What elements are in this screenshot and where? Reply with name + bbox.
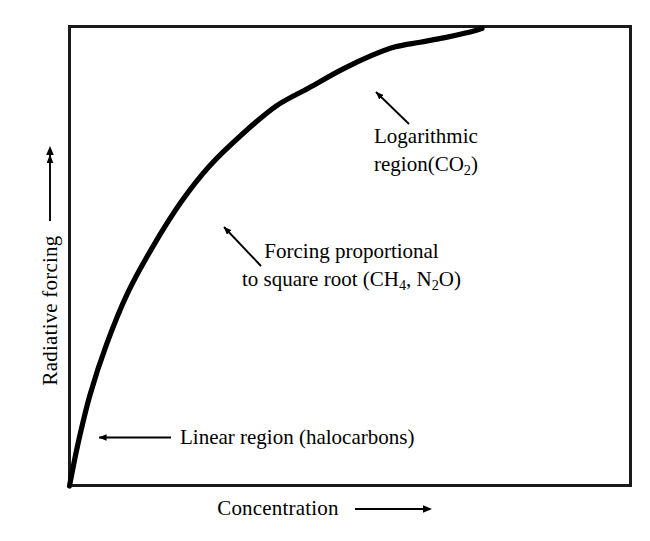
x-axis-label: Concentration [0,496,650,521]
annotation-square-root-line2: to square root (CH4, N2O) [242,266,461,294]
annotation-square-root-line1: Forcing proportional [242,238,461,266]
right-arrow-icon [353,502,433,516]
annotation-square-root-line2-part3: O) [439,267,461,291]
annotation-square-root: Forcing proportional to square root (CH4… [242,238,461,293]
annotation-square-root-line2-part2: , N [406,267,432,291]
annotation-linear-region: Linear region (halocarbons) [180,424,414,452]
annotation-logarithmic-line2-prefix: region(CO [374,152,464,176]
y-axis-label: Radiative forcing [30,120,70,410]
annotation-logarithmic-line1: Logarithmic [374,123,478,151]
up-arrow-icon [43,145,57,223]
chart-figure: Radiative forcing Concentration Logarith… [0,0,650,541]
annotation-linear-region-text: Linear region (halocarbons) [180,425,414,449]
annotation-logarithmic-line2-suffix: ) [471,152,478,176]
annotation-square-root-line2-part1: to square root (CH [242,267,399,291]
annotation-logarithmic-line2-sub: 2 [464,162,471,178]
annotation-logarithmic-line2: region(CO2) [374,151,478,179]
annotation-logarithmic: Logarithmic region(CO2) [374,123,478,178]
y-axis-label-text: Radiative forcing [38,236,63,386]
annotation-square-root-line2-sub1: 4 [399,277,406,293]
annotation-square-root-line2-sub2: 2 [432,277,439,293]
x-axis-label-text: Concentration [217,496,339,521]
